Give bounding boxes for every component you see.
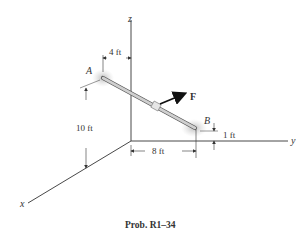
axes (28, 52, 288, 203)
dimension-10ft-label: 10 ft (76, 123, 93, 133)
x-axis (28, 141, 131, 203)
force-label: F (190, 91, 196, 102)
dimension-1ft-label: 1 ft (223, 130, 236, 140)
dimension-4ft (103, 55, 131, 72)
dimension-8ft-label: 8 ft (152, 146, 165, 156)
z-axis-label: z (127, 13, 132, 24)
point-B-label: B (204, 115, 210, 126)
rod-AB (103, 78, 195, 128)
diagram-canvas: z y x A B F 4 ft 10 ft 8 ft 1 ft Prob. R… (0, 0, 308, 237)
dimension-4ft-label: 4 ft (109, 47, 122, 57)
force-arrow (160, 94, 184, 104)
y-axis-label: y (290, 135, 296, 146)
figure-caption: Prob. R1–34 (125, 220, 176, 230)
x-axis-label: x (19, 198, 25, 209)
point-A-label: A (85, 65, 93, 76)
